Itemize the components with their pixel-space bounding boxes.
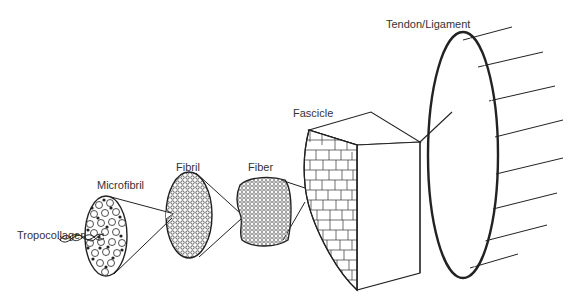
tendon-hierarchy-diagram	[0, 0, 578, 298]
label-fascicle: Fascicle	[293, 108, 333, 119]
label-tendon-ligament: Tendon/Ligament	[386, 19, 470, 30]
label-fibril: Fibril	[176, 162, 200, 173]
label-microfibril: Microfibril	[97, 180, 144, 191]
microfibril-cross-section	[85, 196, 127, 276]
fiber-cross-section	[237, 177, 291, 246]
tendon-ellipse	[428, 32, 498, 278]
label-fiber: Fiber	[248, 162, 273, 173]
fibril-cross-section	[166, 172, 212, 258]
tendon-fibre-lines	[463, 27, 563, 268]
label-tropocollagen: Tropocollagen	[17, 230, 86, 241]
